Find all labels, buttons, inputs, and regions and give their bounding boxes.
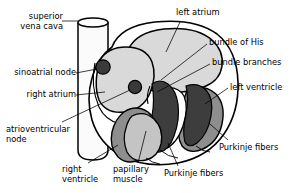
label-right-atrium: right atrium <box>0 90 76 100</box>
atrioventricular-node-shape <box>128 80 141 93</box>
heart-conduction-diagram: superior vena cava sinoatrial node right… <box>0 0 291 193</box>
label-left-atrium: left atrium <box>176 8 236 18</box>
label-superior-vena-cava: superior vena cava <box>8 12 63 31</box>
label-purkinje-fibers-right: Purkinje fibers <box>219 143 291 153</box>
label-papillary-muscle: papillary muscle <box>113 165 161 184</box>
label-right-ventricle: right ventricle <box>62 165 108 184</box>
papillary-muscle-shape <box>124 114 161 161</box>
label-atrioventricular-node: atrioventricular node <box>6 125 86 144</box>
label-sinoatrial-node: sinoatrial node <box>0 68 76 78</box>
sinoatrial-node-shape <box>96 60 110 74</box>
label-bundle-branches: bundle branches <box>212 58 290 68</box>
label-left-ventricle: left ventricle <box>230 83 291 93</box>
label-purkinje-fibers-bottom: Purkinje fibers <box>164 169 234 179</box>
label-bundle-of-his: bundle of His <box>209 38 281 48</box>
